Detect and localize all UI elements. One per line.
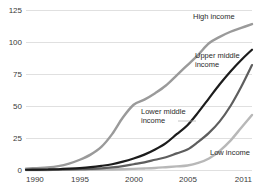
chart-container: 125 100 75 50 25 0 1990 1995 2000 2005 2… (0, 0, 258, 187)
y-tick-label-125: 125 (9, 6, 23, 15)
series-label-upper-middle-income-line2: income (195, 60, 219, 69)
y-tick-label-25: 25 (13, 134, 22, 143)
line-chart: 125 100 75 50 25 0 1990 1995 2000 2005 2… (0, 0, 258, 187)
series-label-low-income: Low income (210, 148, 250, 157)
x-tick-label-2005: 2005 (179, 175, 197, 184)
series-label-upper-middle-income: Upper middle (195, 51, 240, 60)
series-label-lower-middle-income: Lower middle (141, 107, 186, 116)
x-tick-label-1995: 1995 (71, 175, 89, 184)
gridlines (26, 10, 252, 170)
y-tick-label-75: 75 (13, 70, 22, 79)
x-axis-tick-labels: 1990 1995 2000 2005 2011 (26, 175, 253, 184)
y-tick-label-100: 100 (9, 38, 23, 47)
y-tick-label-50: 50 (13, 102, 22, 111)
y-tick-label-0: 0 (18, 166, 23, 175)
x-tick-label-2011: 2011 (235, 175, 253, 184)
x-tick-label-1990: 1990 (26, 175, 44, 184)
x-tick-label-2000: 2000 (125, 175, 143, 184)
series-label-lower-middle-income-line2: income (141, 116, 165, 125)
y-axis-tick-labels: 125 100 75 50 25 0 (9, 6, 23, 175)
series-label-high-income: High income (193, 12, 235, 21)
